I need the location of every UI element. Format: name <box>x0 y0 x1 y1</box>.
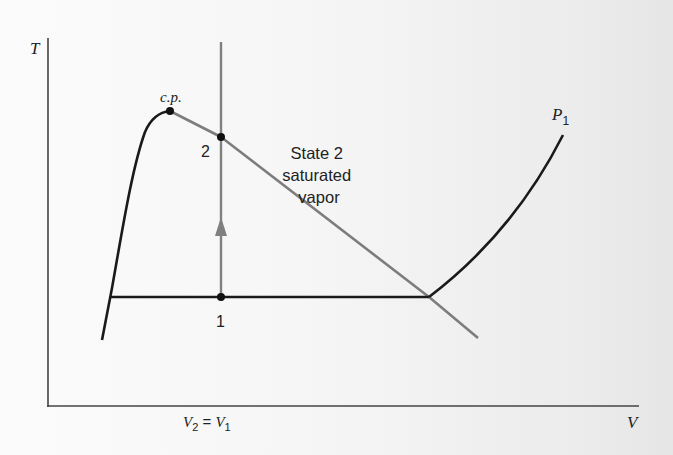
isobar-p1-label: P1 <box>551 105 569 128</box>
isobar-p1-curve <box>429 135 563 297</box>
state-1-marker <box>217 293 225 301</box>
y-axis-label: T <box>30 39 41 58</box>
process-arrow-icon <box>215 217 227 236</box>
saturated-liquid-line <box>102 111 170 340</box>
critical-point-label: c.p. <box>160 89 182 105</box>
volume-equality-label: V2 = V1 <box>183 413 231 433</box>
state-1-number-label: 1 <box>216 313 225 330</box>
state-2-number-label: 2 <box>201 143 210 160</box>
tv-diagram: T V V2 = V1 c.p. 2 1 State 2 saturated v… <box>0 0 673 455</box>
critical-point-marker <box>166 107 174 115</box>
state-2-marker <box>217 133 225 141</box>
x-axis-label: V <box>627 413 640 432</box>
state-2-description: State 2 saturated vapor <box>282 144 355 206</box>
